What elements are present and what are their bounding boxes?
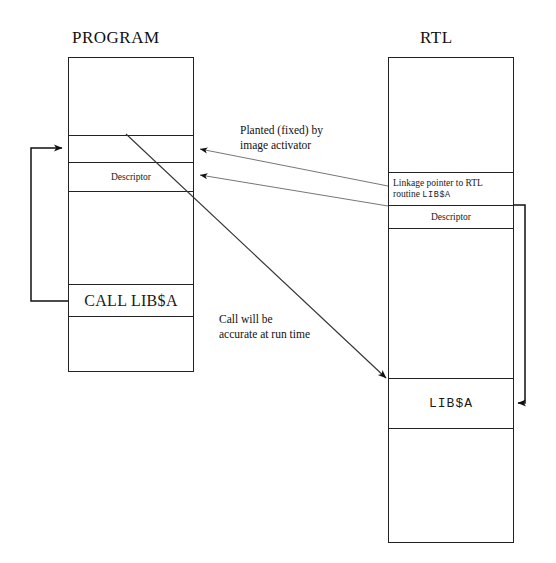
program-cell-top (69, 58, 193, 136)
linkage-pointer-wire-upper (200, 149, 388, 186)
program-cell-call: CALL LIB$A (69, 285, 193, 317)
rtl-cell-descriptor-label: Descriptor (428, 212, 474, 223)
program-cell-bottom (69, 317, 193, 371)
rtl-memory-box: Linkage pointer to RTL routine LIB$A Des… (388, 57, 514, 543)
diagram-canvas: PROGRAM RTL Descriptor CALL LIB$A Linkag… (0, 0, 556, 563)
rtl-cell-bottom (389, 429, 513, 542)
program-cell-linkage (69, 136, 193, 163)
rtl-linkage-routine-name: LIB$A (422, 190, 451, 200)
rtl-cell-body (389, 229, 513, 379)
rtl-cell-lib: LIB$A (389, 379, 513, 429)
program-memory-box: Descriptor CALL LIB$A (68, 57, 194, 372)
rtl-cell-linkage: Linkage pointer to RTL routine LIB$A (389, 173, 513, 206)
program-cell-descriptor-label: Descriptor (108, 172, 154, 183)
rtl-cell-linkage-label: Linkage pointer to RTL routine LIB$A (389, 178, 513, 201)
annotation-call-accurate-at-run-time: Call will be accurate at run time (219, 312, 310, 342)
program-cell-descriptor: Descriptor (69, 163, 193, 192)
annotation-planted-by-image-activator: Planted (fixed) by image activator (240, 123, 323, 153)
program-cell-call-label: CALL LIB$A (81, 295, 181, 306)
rtl-cell-top (389, 58, 513, 173)
program-title: PROGRAM (72, 28, 160, 48)
program-call-loop-wire (31, 148, 68, 301)
rtl-cell-descriptor: Descriptor (389, 206, 513, 229)
rtl-linkage-to-lib-loop-wire (514, 205, 525, 403)
rtl-title: RTL (420, 28, 453, 48)
rtl-cell-lib-label: LIB$A (426, 398, 476, 409)
program-cell-body (69, 192, 193, 285)
descriptor-pointer-wire-lower (200, 175, 388, 206)
